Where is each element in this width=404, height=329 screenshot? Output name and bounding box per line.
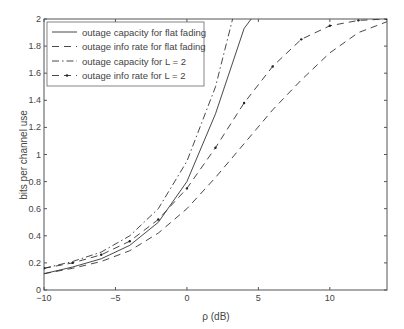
legend-entry: outage capacity for flat fading — [82, 27, 206, 38]
x-tick-label: 0 — [184, 293, 189, 303]
y-tick-label: 2 — [36, 14, 41, 24]
legend-entry: outage info rate for flat fading — [82, 41, 206, 52]
x-tick-label: −5 — [110, 293, 120, 303]
y-tick-label: 0.8 — [28, 177, 41, 187]
line-chart: −10−5051000.20.40.60.811.21.41.61.82 out… — [0, 0, 404, 329]
y-tick-label: 1.6 — [28, 68, 41, 78]
x-tick-label: 5 — [256, 293, 261, 303]
x-tick-label: 10 — [325, 293, 335, 303]
x-axis-label: ρ (dB) — [202, 311, 229, 322]
y-tick-label: 0.6 — [28, 204, 41, 214]
y-tick-label: 0.2 — [28, 258, 41, 268]
y-tick-label: 1.8 — [28, 41, 41, 51]
y-tick-label: 1.2 — [28, 122, 41, 132]
legend-entry: outage info rate for L = 2 — [82, 70, 185, 81]
y-tick-label: 1 — [36, 150, 41, 160]
legend: outage capacity for flat fadingoutage in… — [47, 22, 206, 86]
y-tick-label: 1.4 — [28, 95, 41, 105]
legend-entry: outage capacity for L = 2 — [82, 56, 186, 67]
y-axis-label: bits per channel use — [18, 110, 29, 200]
y-tick-label: 0.4 — [28, 231, 41, 241]
y-tick-label: 0 — [36, 285, 41, 295]
